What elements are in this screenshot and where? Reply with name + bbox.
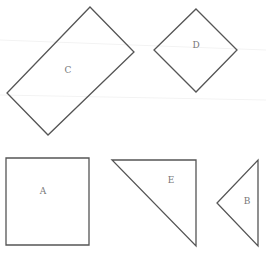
- shape-c: C: [7, 7, 134, 135]
- shape-b-outline: [217, 160, 258, 246]
- shape-a-outline: [6, 158, 89, 245]
- shape-c-label: C: [65, 65, 72, 75]
- shapes-diagram: C D A E B: [0, 0, 266, 259]
- faint-guide-line: [0, 95, 266, 100]
- shape-d-label: D: [192, 40, 199, 50]
- shape-b-label: B: [244, 196, 251, 206]
- shape-d: D: [154, 9, 237, 92]
- shape-b: B: [217, 160, 258, 246]
- shape-e-label: E: [168, 175, 175, 185]
- faint-guide-line: [0, 40, 266, 50]
- shape-e: E: [112, 160, 196, 246]
- shape-a-label: A: [39, 186, 47, 196]
- shape-a: A: [6, 158, 89, 245]
- shape-d-outline: [154, 9, 237, 92]
- shape-e-outline: [112, 160, 196, 246]
